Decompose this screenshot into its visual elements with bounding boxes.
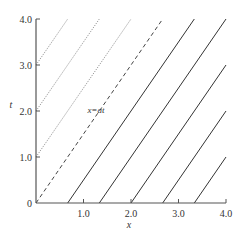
y-tick-label: 4.0 xyxy=(20,14,33,25)
y-axis-label: t xyxy=(10,99,13,110)
y-tick-label: 3.0 xyxy=(20,60,33,71)
series-line-solid-x1-33 xyxy=(99,19,226,203)
x-tick-label: 4.0 xyxy=(220,208,233,219)
y-tick-label: 2.0 xyxy=(20,106,33,117)
series-line-dotted-t1 xyxy=(36,19,131,157)
x-tick-label: 3.0 xyxy=(172,208,185,219)
series-line-dotted-t3 xyxy=(36,19,68,65)
series-line-solid-x2-0 xyxy=(131,65,226,203)
y-tick-label: 0 xyxy=(27,198,32,209)
x-tick-label: 2.0 xyxy=(125,208,138,219)
characteristics-chart: 1.02.03.04.001.02.03.04.0xtx=at xyxy=(0,0,245,238)
x-tick-label: 1.0 xyxy=(77,208,90,219)
series-line-dotted-t2 xyxy=(36,19,99,111)
x-axis-label: x xyxy=(126,219,132,230)
y-tick-label: 1.0 xyxy=(20,152,33,163)
series-line-solid-x3-33 xyxy=(194,157,226,203)
line-annotation: x=at xyxy=(86,105,105,115)
series-line-solid-x2-67 xyxy=(163,111,226,203)
